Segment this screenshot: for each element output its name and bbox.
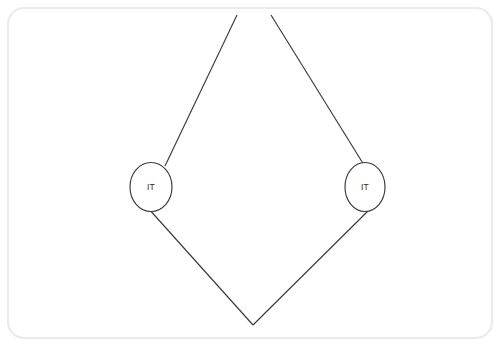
panel-border [8,8,492,338]
nodes-group: ITIT [130,163,385,212]
right-it-node-label: IT [361,182,369,192]
diagram-canvas: ITIT [0,0,500,346]
right-it-node[interactable]: IT [345,163,385,212]
edge-upper-left [165,15,237,166]
edges-group [148,15,372,325]
edge-lower-left [148,208,253,325]
diagram-svg: ITIT [0,0,500,346]
edge-lower-right [253,207,372,325]
left-it-node-label: IT [147,182,155,192]
left-it-node[interactable]: IT [130,163,172,212]
edge-upper-right [271,15,364,165]
